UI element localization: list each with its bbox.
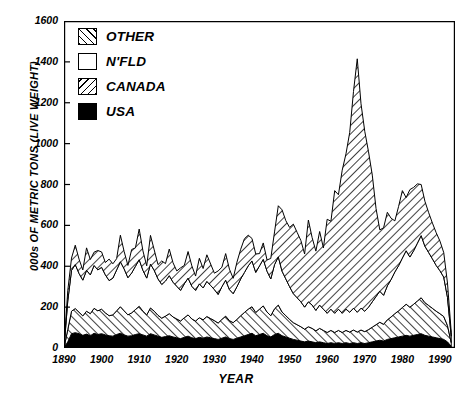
legend-item-usa: USA <box>78 99 228 124</box>
y-tick-label: 1000 <box>14 137 58 149</box>
y-tick-label: 1200 <box>14 96 58 108</box>
legend-label-canada: CANADA <box>106 79 166 94</box>
y-tick-label: 1600 <box>14 14 58 26</box>
legend-item-other: OTHER <box>78 24 228 49</box>
legend-label-nfld: N'FLD <box>106 54 146 69</box>
y-axis-title: 000s OF METRIC TONS (LIVE WEIGHT) <box>28 36 40 296</box>
legend-swatch-nfld-icon <box>78 53 97 70</box>
legend-label-usa: USA <box>106 104 135 119</box>
chart-figure: 000s OF METRIC TONS (LIVE WEIGHT) YEAR 0… <box>0 0 472 393</box>
y-tick-label: 0 <box>14 341 58 353</box>
x-tick-label: 1990 <box>418 353 462 365</box>
legend: OTHER N'FLD CANADA USA <box>78 24 228 124</box>
legend-label-other: OTHER <box>106 29 154 44</box>
y-tick-label: 200 <box>14 300 58 312</box>
y-tick-label: 1400 <box>14 55 58 67</box>
y-tick-label: 400 <box>14 259 58 271</box>
y-tick-label: 600 <box>14 218 58 230</box>
x-axis-title: YEAR <box>0 372 472 386</box>
legend-swatch-usa-icon <box>78 103 97 120</box>
legend-item-nfld: N'FLD <box>78 49 228 74</box>
y-tick-label: 800 <box>14 178 58 190</box>
legend-swatch-other-icon <box>78 28 97 45</box>
legend-item-canada: CANADA <box>78 74 228 99</box>
legend-swatch-canada-icon <box>78 78 97 95</box>
